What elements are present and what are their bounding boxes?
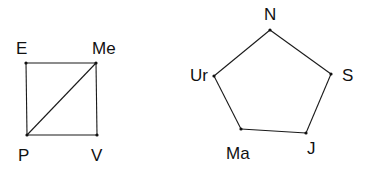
node-Ma <box>239 127 242 130</box>
node-E <box>24 61 27 64</box>
pentagon-graph <box>212 28 332 134</box>
edge-P-Me <box>27 63 96 135</box>
edge-P-E <box>26 63 27 135</box>
square-graph <box>24 61 98 136</box>
node-S <box>329 72 332 75</box>
edge-Ur-N <box>214 30 270 76</box>
edge-Me-V <box>96 63 97 135</box>
node-label-Me: Me <box>92 40 116 57</box>
node-P <box>25 133 28 136</box>
node-label-P: P <box>18 147 29 164</box>
edge-Ma-Ur <box>214 76 241 129</box>
edge-S-J <box>306 74 331 133</box>
node-V <box>95 133 98 136</box>
node-label-J: J <box>307 140 316 157</box>
node-label-S: S <box>342 67 353 84</box>
node-J <box>304 131 307 134</box>
node-label-E: E <box>16 40 27 57</box>
node-label-N: N <box>264 6 276 23</box>
edge-J-Ma <box>241 129 306 133</box>
node-label-Ur: Ur <box>190 67 208 84</box>
node-Ur <box>212 74 215 77</box>
node-Me <box>94 61 97 64</box>
node-label-V: V <box>91 147 102 164</box>
node-label-Ma: Ma <box>226 145 250 162</box>
edge-N-S <box>270 30 331 74</box>
node-N <box>268 28 271 31</box>
